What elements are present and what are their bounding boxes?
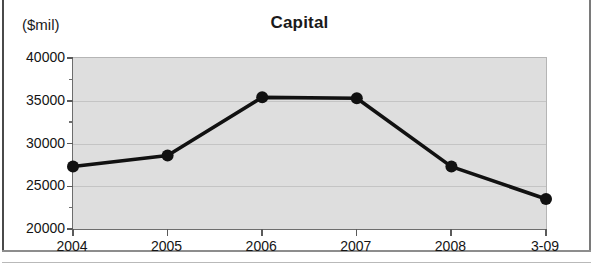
x-axis-tick xyxy=(167,229,169,236)
x-axis-tick-label: 2007 xyxy=(340,238,371,254)
x-axis-tick-label: 2004 xyxy=(56,238,87,254)
x-axis-tick-label: 2005 xyxy=(151,238,182,254)
y-axis-tick-labels: 2000025000300003500040000 xyxy=(0,57,65,228)
x-axis-tick xyxy=(261,229,263,236)
x-axis-tick-label: 3-09 xyxy=(531,238,559,254)
y-axis-label: ($mil) xyxy=(22,16,60,33)
plot-area xyxy=(72,57,547,230)
page-border-bottom-secondary xyxy=(2,262,591,263)
y-axis-tick-label: 40000 xyxy=(26,49,65,65)
x-axis-ticks xyxy=(72,229,547,237)
y-axis-tick-label: 35000 xyxy=(26,92,65,108)
data-point-marker xyxy=(162,149,174,161)
line-series xyxy=(73,58,546,229)
y-axis-tick-label: 20000 xyxy=(26,220,65,236)
data-point-marker xyxy=(256,91,268,103)
data-point-marker xyxy=(67,161,79,173)
chart-figure: Capital ($mil) 2000025000300003500040000… xyxy=(0,0,599,276)
page-border-right xyxy=(589,0,591,252)
x-axis-tick xyxy=(545,229,547,236)
data-point-marker xyxy=(351,92,363,104)
series-line xyxy=(73,97,546,199)
y-axis-tick-label: 30000 xyxy=(26,135,65,151)
chart-title: Capital xyxy=(0,13,599,33)
x-axis-tick xyxy=(356,229,358,236)
x-axis-tick-label: 2006 xyxy=(246,238,277,254)
data-point-marker xyxy=(540,193,552,205)
x-axis-tick-label: 2008 xyxy=(435,238,466,254)
data-point-marker xyxy=(445,161,457,173)
x-axis-tick xyxy=(450,229,452,236)
x-axis-tick xyxy=(72,229,74,236)
x-axis-tick-labels: 200420052006200720083-09 xyxy=(0,238,599,258)
y-axis-tick-label: 25000 xyxy=(26,177,65,193)
